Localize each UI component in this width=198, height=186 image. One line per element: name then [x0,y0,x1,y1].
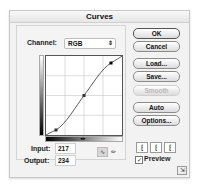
output-gradient-bar [39,55,44,136]
options-button[interactable]: Options... [133,115,180,126]
load-button[interactable]: Load... [133,58,180,69]
curve-point[interactable] [55,129,58,132]
ok-button[interactable]: OK [133,28,180,39]
curves-dialog: Curves Channel: RGB ⇕ [9,10,190,178]
curves-panel: Channel: RGB ⇕ [16,25,126,160]
eyedropper-icon: ⁅ [141,144,144,151]
output-label: Output: [24,157,49,164]
eyedropper-icon: ⁅ [169,144,172,151]
save-button[interactable]: Save... [133,71,180,82]
curve-icon: ∿ [100,149,105,155]
input-gradient-bar[interactable]: ◂▸ [45,136,123,142]
chevron-updown-icon: ⇕ [108,39,113,48]
input-field[interactable]: 217 [55,143,76,154]
gray-eyedropper-button[interactable]: ⁅ [150,142,162,153]
smooth-button[interactable]: Smooth [133,85,180,96]
black-eyedropper-button[interactable]: ⁅ [136,142,148,153]
pencil-tool-button[interactable]: ✏ [108,147,119,157]
gradient-toggle-icon[interactable]: ◂▸ [80,136,86,141]
curve-point-selected[interactable] [110,62,113,65]
output-field[interactable]: 234 [55,155,76,166]
channel-label: Channel: [27,39,57,46]
resize-icon[interactable]: ⇲ [177,166,187,175]
curve-point[interactable] [83,94,86,97]
eyedropper-icon: ⁅ [155,144,158,151]
white-eyedropper-button[interactable]: ⁅ [164,142,176,153]
auto-button[interactable]: Auto [133,102,180,113]
cancel-button[interactable]: Cancel [133,41,180,52]
preview-checkbox[interactable]: ✓ [135,156,143,164]
pencil-icon: ✏ [111,149,116,155]
curve-graph[interactable] [45,55,123,136]
curve-svg [46,56,122,135]
channel-value: RGB [68,40,82,47]
preview-label: Preview [144,155,170,162]
channel-select[interactable]: RGB ⇕ [64,38,116,49]
curve-tool-button[interactable]: ∿ [97,147,108,157]
dialog-title: Curves [10,11,189,23]
input-label: Input: [31,145,50,152]
